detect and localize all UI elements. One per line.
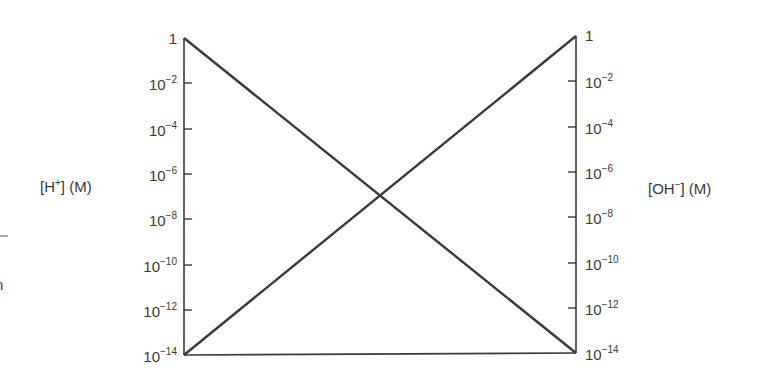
right-tick-label: 10−4	[585, 121, 613, 136]
tick-base: 10	[143, 348, 160, 365]
tick-base: 1	[169, 30, 177, 47]
tick-exp: −12	[602, 299, 619, 310]
axis-title-rest: ] (M)	[61, 178, 92, 195]
left-ticks	[184, 83, 192, 310]
tick-exp: −2	[602, 72, 613, 83]
bottom-axis	[184, 353, 576, 355]
right-tick-label: 10−6	[585, 166, 613, 181]
tick-base: 10	[143, 258, 160, 275]
tick-exp: −10	[602, 254, 619, 265]
right-tick-label: 1	[585, 28, 593, 43]
tick-base: 1	[585, 27, 593, 44]
axis-title-sup: +	[55, 177, 61, 188]
tick-exp: −14	[160, 346, 177, 357]
left-tick-label: 10−10	[117, 259, 177, 274]
axis-title-rest: ] (M)	[681, 180, 712, 197]
right-tick-label: 10−8	[585, 211, 613, 226]
tick-base: 10	[149, 167, 166, 184]
tick-base: 10	[149, 212, 166, 229]
right-tick-label: 10−12	[585, 302, 619, 317]
right-tick-label: 10−14	[585, 347, 619, 362]
left-tick-label: 10−6	[117, 168, 177, 183]
left-tick-label: 10−2	[117, 77, 177, 92]
tick-exp: −4	[602, 118, 613, 129]
left-tick-label: 10−4	[117, 123, 177, 138]
tick-exp: −10	[160, 256, 177, 267]
tick-exp: −8	[602, 208, 613, 219]
axis-title-base: [H	[40, 178, 55, 195]
left-tick-label: 10−8	[117, 213, 177, 228]
left-tick-label: 1	[117, 31, 177, 46]
tick-exp: −2	[166, 74, 177, 85]
tick-base: 10	[149, 76, 166, 93]
left-tick-label: 10−14	[117, 349, 177, 364]
tick-exp: −4	[166, 120, 177, 131]
tick-base: 10	[585, 165, 602, 182]
right-tick-label: 10−10	[585, 257, 619, 272]
tick-base: 10	[585, 120, 602, 137]
tick-base: 10	[149, 122, 166, 139]
axis-title-sup: −	[675, 179, 681, 190]
tick-base: 10	[585, 301, 602, 318]
tick-base: 10	[143, 303, 160, 320]
left-axis-title: [H+] (M)	[40, 178, 92, 195]
tick-base: 10	[585, 210, 602, 227]
tick-base: 10	[585, 256, 602, 273]
tick-exp: −6	[602, 163, 613, 174]
right-ticks	[568, 81, 576, 308]
axis-title-base: [OH	[648, 180, 675, 197]
edge-fragment-text: n	[0, 276, 3, 293]
right-tick-label: 10−2	[585, 75, 613, 90]
tick-exp: −14	[602, 344, 619, 355]
tick-base: 10	[585, 74, 602, 91]
right-axis-title: [OH−] (M)	[648, 180, 711, 197]
tick-base: 10	[585, 346, 602, 363]
tick-exp: −6	[166, 165, 177, 176]
tick-exp: −12	[160, 301, 177, 312]
left-tick-label: 10−12	[117, 304, 177, 319]
tick-exp: −8	[166, 210, 177, 221]
